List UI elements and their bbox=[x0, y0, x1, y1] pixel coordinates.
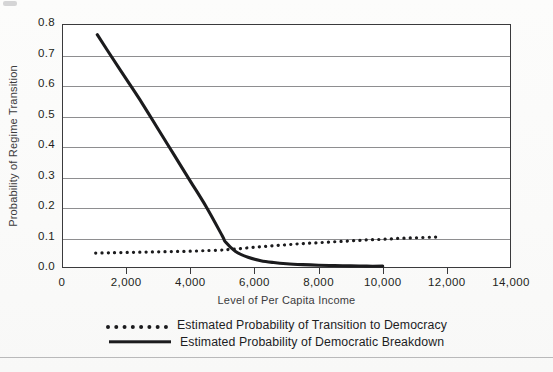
figure: 0.00.10.20.30.40.50.60.70.8 Probability … bbox=[0, 0, 553, 372]
chart-legend: Estimated Probability of Transition to D… bbox=[0, 316, 553, 350]
x-tick-label: 12,000 bbox=[428, 276, 466, 288]
x-tick-mark bbox=[126, 268, 127, 274]
plot-area bbox=[62, 24, 511, 268]
x-tick-mark bbox=[190, 268, 191, 274]
x-tick-mark bbox=[383, 268, 384, 274]
scan-artifact bbox=[3, 1, 17, 6]
gridline bbox=[63, 178, 510, 179]
x-tick-label: 14,000 bbox=[492, 276, 530, 288]
gridline bbox=[63, 208, 510, 209]
x-axis-title: Level of Per Capita Income bbox=[62, 294, 511, 306]
solid-line-key-icon bbox=[109, 337, 171, 347]
gridline bbox=[63, 239, 510, 240]
x-tick-mark bbox=[254, 268, 255, 274]
y-axis-title: Probability of Regime Transition bbox=[7, 24, 23, 268]
legend-label-breakdown: Estimated Probability of Democratic Brea… bbox=[180, 335, 444, 349]
gridline bbox=[63, 86, 510, 87]
gridline bbox=[63, 147, 510, 148]
x-tick-label: 2,000 bbox=[111, 276, 142, 288]
gridline bbox=[63, 56, 510, 57]
legend-label-transition: Estimated Probability of Transition to D… bbox=[177, 318, 447, 332]
x-tick-label: 0 bbox=[59, 276, 66, 288]
x-tick-label: 8,000 bbox=[303, 276, 334, 288]
legend-entry-transition: Estimated Probability of Transition to D… bbox=[0, 316, 553, 333]
dotted-line-key-icon bbox=[106, 320, 168, 330]
x-tick-label: 6,000 bbox=[239, 276, 270, 288]
x-tick-label: 10,000 bbox=[364, 276, 402, 288]
x-tick-mark bbox=[447, 268, 448, 274]
gridline bbox=[63, 117, 510, 118]
x-tick-mark bbox=[319, 268, 320, 274]
x-tick-label: 4,000 bbox=[175, 276, 206, 288]
bottom-divider bbox=[0, 357, 553, 358]
legend-entry-breakdown: Estimated Probability of Democratic Brea… bbox=[0, 333, 553, 350]
